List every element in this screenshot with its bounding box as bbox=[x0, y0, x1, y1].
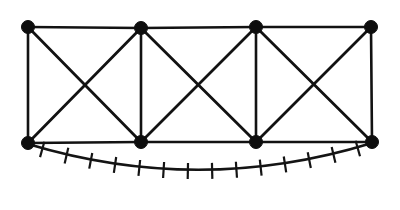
bottom-chord-1 bbox=[28, 142, 141, 143]
bottom-second-node bbox=[135, 136, 148, 149]
bottom-third-node bbox=[250, 136, 263, 149]
top-chord-1 bbox=[28, 27, 141, 28]
top-right-node bbox=[365, 21, 378, 34]
diagram-background bbox=[0, 0, 400, 210]
top-left-node bbox=[22, 21, 35, 34]
truss-diagram bbox=[0, 0, 400, 210]
vertical-4 bbox=[371, 27, 372, 142]
top-chord-2 bbox=[141, 27, 256, 28]
bottom-right-node bbox=[366, 136, 379, 149]
top-second-node bbox=[135, 22, 148, 35]
bottom-left-node bbox=[22, 137, 35, 150]
top-third-node bbox=[250, 21, 263, 34]
